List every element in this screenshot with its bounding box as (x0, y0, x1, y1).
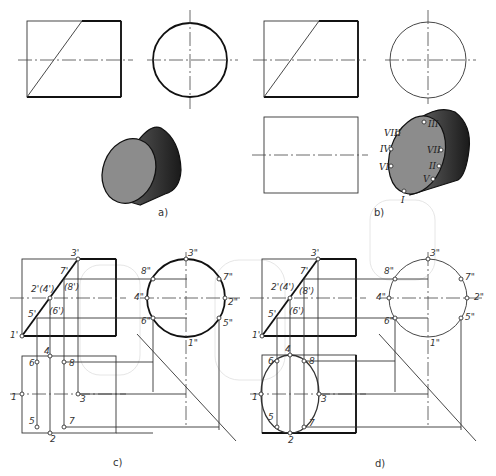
label-4pp: 4" (134, 292, 144, 302)
label-1: 1 (11, 392, 17, 402)
label-2pp: 2" (228, 297, 238, 307)
label-8pp: 8" (141, 266, 151, 276)
label-8p: (8') (64, 282, 79, 292)
label-IV: IV (379, 144, 392, 154)
label-7pp: 7" (223, 272, 233, 282)
label-5p-d: 5' (268, 309, 276, 319)
label-6pp-d: 6" (384, 316, 394, 326)
panel-b: III VIII IV VI VII II V I b) (252, 10, 476, 218)
label-6p-d: (6') (289, 306, 304, 316)
label-2p4p-d: 2'(4') (271, 282, 294, 292)
label-3p-d: 3' (311, 248, 319, 258)
label-8: 8 (69, 358, 75, 368)
label-5-d: 5 (268, 412, 274, 422)
background-ghost (80, 200, 435, 380)
panel-c: 3' 7' 2'(4') (8') 5' (6') 1' 3" 8" 7" 4"… (10, 248, 240, 468)
label-7p: 7' (60, 266, 68, 276)
label-2: 2 (50, 434, 56, 444)
label-1pp-d: 1" (430, 338, 440, 348)
label-4-d: 4 (285, 344, 291, 354)
caption-d: d) (375, 458, 385, 469)
caption-b: b) (374, 207, 384, 218)
label-8p-d: (8') (299, 286, 314, 296)
label-8pp-d: 8" (384, 266, 394, 276)
label-7-d: 7 (309, 418, 315, 428)
label-III: III (427, 119, 439, 129)
label-6p: (6') (49, 306, 64, 316)
cut-cylinder-iso-a (93, 127, 181, 211)
label-6pp: 6" (141, 316, 151, 326)
label-3-d: 3 (321, 394, 327, 404)
label-3p: 3' (71, 248, 79, 258)
label-3pp-d: 3" (430, 248, 440, 258)
label-7p-d: 7' (300, 266, 308, 276)
label-1-d: 1 (252, 392, 258, 402)
label-1pp: 1" (188, 338, 198, 348)
label-2-d: 2 (288, 435, 294, 445)
cut-cylinder-iso-b: III VIII IV VI VII II V I (379, 109, 469, 205)
label-4: 4 (44, 346, 50, 356)
label-5p: 5' (28, 309, 36, 319)
label-3: 3 (80, 394, 86, 404)
label-7pp-d: 7" (465, 272, 475, 282)
label-VIII: VIII (384, 128, 402, 138)
label-3pp: 3" (188, 248, 198, 258)
label-I: I (400, 195, 405, 205)
caption-c: c) (113, 457, 122, 468)
label-5pp: 5" (223, 318, 233, 328)
label-7: 7 (69, 416, 75, 426)
label-4pp-d: 4" (376, 292, 386, 302)
label-1p: 1' (10, 330, 18, 340)
label-5pp-d: 5" (465, 312, 475, 322)
label-5: 5 (29, 416, 35, 426)
label-8-d: 8 (309, 356, 315, 366)
caption-a: a) (158, 207, 168, 218)
label-6-d: 6 (268, 356, 274, 366)
label-VII: VII (427, 145, 441, 155)
panel-a: a) (18, 10, 238, 218)
label-1p-d: 1' (252, 330, 260, 340)
label-II: II (428, 161, 437, 171)
projection-drawing: a) III VIII IV VI VI (0, 0, 496, 476)
label-6: 6 (29, 358, 35, 368)
label-2p4p: 2'(4') (31, 284, 54, 294)
label-VI: VI (379, 162, 389, 172)
label-2pp-d: 2" (474, 292, 484, 302)
